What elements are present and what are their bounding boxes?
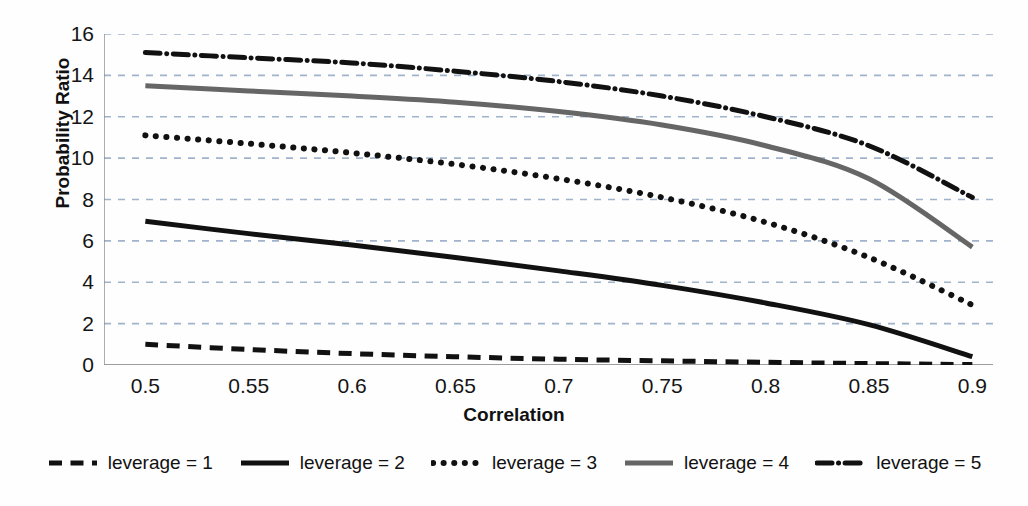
x-tick-label: 0.55 bbox=[204, 374, 294, 398]
x-tick-label: 0.9 bbox=[927, 374, 1017, 398]
plot-area bbox=[104, 34, 993, 365]
series-line-3 bbox=[145, 135, 972, 305]
legend-item-3[interactable]: leverage = 3 bbox=[431, 452, 597, 474]
x-tick-label: 0.6 bbox=[307, 374, 397, 398]
chart-figure: Probability Ratio 0246810121416 0.50.550… bbox=[0, 0, 1028, 506]
legend-item-4[interactable]: leverage = 4 bbox=[623, 452, 789, 474]
y-tick-label: 8 bbox=[48, 189, 94, 210]
x-tick-label: 0.5 bbox=[100, 374, 190, 398]
legend-swatch-icon bbox=[431, 456, 483, 470]
x-tick-label: 0.7 bbox=[514, 374, 604, 398]
legend-swatch-icon bbox=[239, 456, 291, 470]
legend-item-5[interactable]: leverage = 5 bbox=[815, 452, 981, 474]
series-line-1 bbox=[145, 344, 972, 364]
y-tick-label: 12 bbox=[48, 106, 94, 127]
legend-swatch-icon bbox=[815, 456, 867, 470]
chart-legend: leverage = 1leverage = 2leverage = 3leve… bbox=[0, 452, 1028, 474]
legend-item-1[interactable]: leverage = 1 bbox=[47, 452, 213, 474]
legend-swatch-icon bbox=[47, 456, 99, 470]
legend-label: leverage = 4 bbox=[684, 452, 789, 474]
x-tick-label: 0.65 bbox=[410, 374, 500, 398]
legend-item-2[interactable]: leverage = 2 bbox=[239, 452, 405, 474]
y-tick-label: 6 bbox=[48, 230, 94, 251]
x-tick-label: 0.8 bbox=[721, 374, 811, 398]
legend-label: leverage = 5 bbox=[876, 452, 981, 474]
y-tick-label: 14 bbox=[48, 64, 94, 85]
x-tick-label: 0.75 bbox=[617, 374, 707, 398]
legend-label: leverage = 1 bbox=[108, 452, 213, 474]
y-tick-label: 2 bbox=[48, 313, 94, 334]
x-axis-title: Correlation bbox=[0, 404, 1028, 426]
y-tick-label: 4 bbox=[48, 271, 94, 292]
series-canvas bbox=[104, 34, 993, 365]
legend-label: leverage = 2 bbox=[300, 452, 405, 474]
y-axis-tick-labels: 0246810121416 bbox=[36, 0, 94, 506]
legend-swatch-icon bbox=[623, 456, 675, 470]
series-line-5 bbox=[145, 53, 972, 198]
series-line-4 bbox=[145, 86, 972, 247]
y-tick-label: 16 bbox=[48, 23, 94, 44]
x-tick-label: 0.85 bbox=[824, 374, 914, 398]
y-tick-label: 0 bbox=[48, 354, 94, 375]
legend-label: leverage = 3 bbox=[492, 452, 597, 474]
y-tick-label: 10 bbox=[48, 147, 94, 168]
